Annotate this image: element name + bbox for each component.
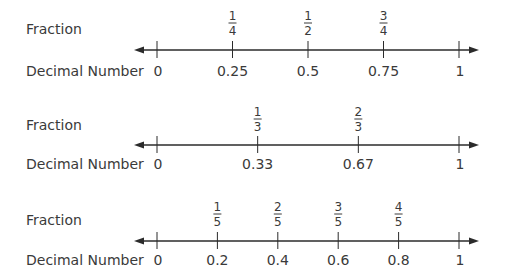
arrow-left-icon xyxy=(134,142,144,149)
number-line-diagram: FractionDecimal Number01140.25120.5340.7… xyxy=(0,0,505,278)
fraction-numerator: 4 xyxy=(395,200,403,214)
fraction-numerator: 3 xyxy=(380,9,388,23)
fraction-denominator: 5 xyxy=(395,215,403,229)
fraction-denominator: 3 xyxy=(254,120,262,134)
decimal-label: 0.25 xyxy=(217,63,248,79)
fraction-row-label: Fraction xyxy=(26,212,82,228)
arrow-right-icon xyxy=(469,238,479,245)
decimal-label: 0.67 xyxy=(343,156,374,172)
fraction-label: 35 xyxy=(334,200,342,229)
decimal-label: 1 xyxy=(456,252,465,268)
decimal-row-label: Decimal Number xyxy=(26,63,144,79)
arrow-right-icon xyxy=(469,47,479,54)
fraction-numerator: 1 xyxy=(214,200,222,214)
fraction-numerator: 3 xyxy=(334,200,342,214)
fraction-numerator: 1 xyxy=(229,9,237,23)
fraction-label: 12 xyxy=(304,9,312,38)
decimal-label: 0.8 xyxy=(387,252,409,268)
decimal-label: 1 xyxy=(456,156,465,172)
fraction-row-label: Fraction xyxy=(26,21,82,37)
decimal-label: 0 xyxy=(154,156,163,172)
fraction-numerator: 2 xyxy=(355,105,363,119)
decimal-label: 0.75 xyxy=(368,63,399,79)
fraction-denominator: 5 xyxy=(334,215,342,229)
fraction-label: 45 xyxy=(395,200,403,229)
fraction-label: 14 xyxy=(229,9,237,38)
decimal-label: 0.5 xyxy=(297,63,319,79)
fraction-row-label: Fraction xyxy=(26,117,82,133)
arrow-left-icon xyxy=(134,47,144,54)
fraction-label: 23 xyxy=(354,105,362,134)
fraction-label: 15 xyxy=(213,200,221,229)
fraction-denominator: 2 xyxy=(304,24,312,38)
decimal-label: 0.33 xyxy=(242,156,273,172)
fraction-denominator: 4 xyxy=(380,24,388,38)
decimal-label: 0.2 xyxy=(206,252,228,268)
decimal-label: 0 xyxy=(154,252,163,268)
fraction-denominator: 5 xyxy=(214,215,222,229)
decimal-row-label: Decimal Number xyxy=(26,156,144,172)
fraction-numerator: 2 xyxy=(274,200,282,214)
decimal-row-label: Decimal Number xyxy=(26,252,144,268)
fraction-numerator: 1 xyxy=(304,9,312,23)
fraction-denominator: 3 xyxy=(355,120,363,134)
decimal-label: 0.6 xyxy=(327,252,349,268)
fraction-label: 34 xyxy=(380,9,388,38)
fraction-denominator: 4 xyxy=(229,24,237,38)
number-line-section-1: FractionDecimal Number01140.25120.5340.7… xyxy=(26,9,479,79)
fraction-label: 25 xyxy=(274,200,282,229)
number-line-section-3: FractionDecimal Number01150.2250.4350.64… xyxy=(26,200,479,268)
fraction-denominator: 5 xyxy=(274,215,282,229)
fraction-label: 13 xyxy=(254,105,262,134)
decimal-label: 0.4 xyxy=(267,252,289,268)
arrow-left-icon xyxy=(134,238,144,245)
fraction-numerator: 1 xyxy=(254,105,262,119)
decimal-label: 0 xyxy=(154,63,163,79)
number-line-section-2: FractionDecimal Number01130.33230.67 xyxy=(26,105,479,172)
decimal-label: 1 xyxy=(456,63,465,79)
arrow-right-icon xyxy=(469,142,479,149)
